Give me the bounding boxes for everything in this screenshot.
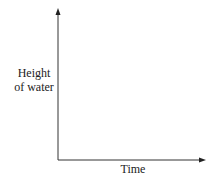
y-axis-label-line-1: Height	[11, 66, 57, 80]
y-axis-label: Height of water	[11, 66, 57, 94]
x-axis-label: Time	[110, 162, 156, 177]
y-axis-arrow-icon	[56, 8, 61, 15]
axes	[0, 0, 214, 193]
y-axis-label-line-2: of water	[11, 80, 57, 94]
x-axis-arrow-icon	[199, 158, 206, 163]
